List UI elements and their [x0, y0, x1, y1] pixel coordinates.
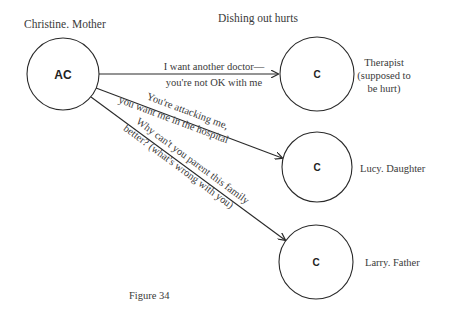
target-node-larry-state: C	[312, 257, 319, 268]
message-therapist-line1: I want another doctor—	[164, 61, 265, 72]
target-node-therapist-label-line1: Therapist	[364, 57, 404, 68]
target-node-lucy-state: C	[313, 162, 320, 173]
message-therapist-line2: you're not OK with me	[166, 77, 263, 88]
transaction-diagram: Dishing out hurts Christine. Mother AC C…	[0, 0, 449, 315]
target-node-therapist-label-line2: (supposed to	[357, 70, 410, 82]
target-node-lucy-label: Lucy. Daughter	[360, 163, 426, 174]
source-node-label: Christine. Mother	[24, 18, 106, 30]
target-node-larry-label: Larry. Father	[365, 257, 420, 268]
target-node-therapist-label-line3: be hurt)	[368, 83, 401, 95]
figure-caption: Figure 34	[129, 290, 170, 301]
target-node-therapist-state: C	[313, 69, 320, 80]
diagram-title: Dishing out hurts	[218, 12, 298, 25]
source-node-state: AC	[54, 68, 72, 82]
